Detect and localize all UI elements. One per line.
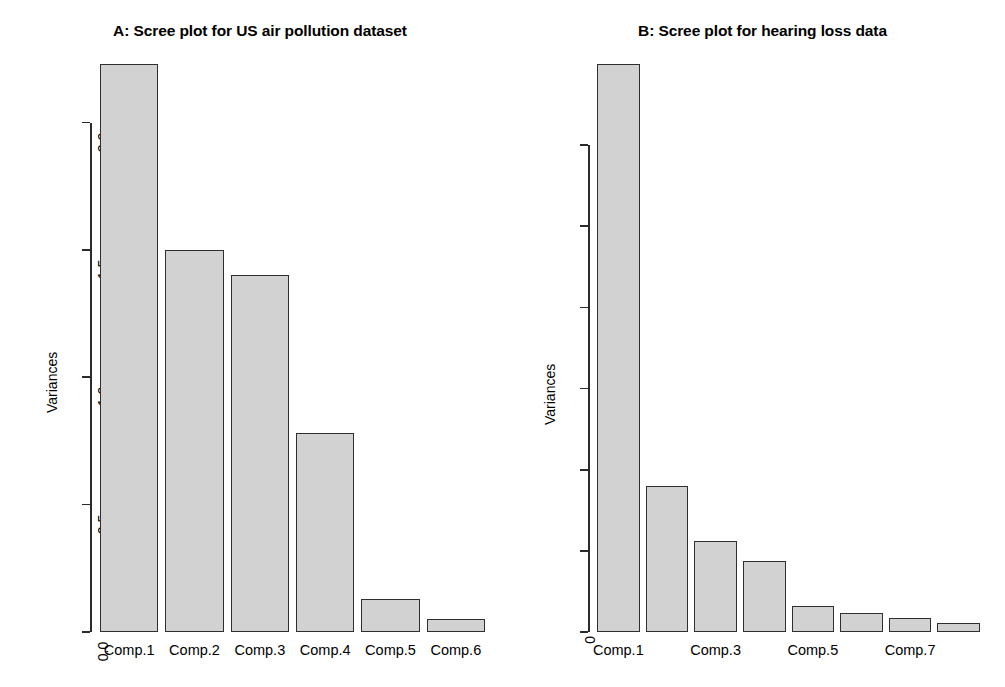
panel-a-plot-area: 0.00.51.01.52.0VariancesComp.1Comp.2Comp… — [0, 0, 520, 687]
bar-comp-4 — [743, 561, 786, 632]
x-axis-label: Comp.3 — [690, 642, 741, 658]
y-axis-tick — [580, 469, 588, 471]
bar-comp-8 — [937, 623, 980, 632]
y-axis-tick — [82, 631, 90, 633]
bar-comp-1 — [100, 64, 158, 632]
bar-comp-6 — [427, 619, 485, 632]
y-axis-tick — [580, 144, 588, 146]
bar-comp-4 — [296, 433, 354, 632]
y-axis-tick — [82, 249, 90, 251]
panel-b-hearing-loss: B: Scree plot for hearing loss data 0100… — [520, 0, 1005, 687]
y-axis-line — [90, 123, 92, 632]
y-axis-tick — [580, 631, 588, 633]
x-axis-label: Comp.1 — [593, 642, 644, 658]
bar-comp-7 — [889, 618, 932, 632]
bar-comp-1 — [597, 64, 640, 632]
x-axis-label: Comp.5 — [787, 642, 838, 658]
x-axis-label: Comp.7 — [885, 642, 936, 658]
x-axis-label: Comp.6 — [430, 642, 481, 658]
bar-comp-3 — [231, 275, 289, 632]
bar-comp-5 — [792, 606, 835, 632]
y-axis-tick — [82, 122, 90, 124]
x-axis-label: Comp.3 — [234, 642, 285, 658]
y-axis-tick — [580, 225, 588, 227]
x-axis-label: Comp.1 — [104, 642, 155, 658]
y-axis-line — [588, 145, 590, 632]
bar-comp-6 — [840, 613, 883, 632]
panel-b-plot-area: 0100200300400500600VariancesComp.1Comp.3… — [520, 0, 1005, 687]
bar-comp-2 — [646, 486, 689, 632]
scree-plot-figure: A: Scree plot for US air pollution datas… — [0, 0, 1005, 687]
y-axis-title: Variances — [542, 363, 558, 424]
bar-comp-5 — [361, 599, 419, 632]
y-axis-tick — [580, 550, 588, 552]
y-axis-tick — [580, 388, 588, 390]
panel-a-us-air-pollution: A: Scree plot for US air pollution datas… — [0, 0, 520, 687]
x-axis-label: Comp.5 — [365, 642, 416, 658]
y-axis-tick — [580, 307, 588, 309]
bar-comp-2 — [165, 250, 223, 632]
y-axis-tick — [82, 504, 90, 506]
x-axis-label: Comp.4 — [300, 642, 351, 658]
y-axis-title: Variances — [44, 352, 60, 413]
bar-comp-3 — [694, 541, 737, 632]
y-axis-tick — [82, 376, 90, 378]
x-axis-label: Comp.2 — [169, 642, 220, 658]
